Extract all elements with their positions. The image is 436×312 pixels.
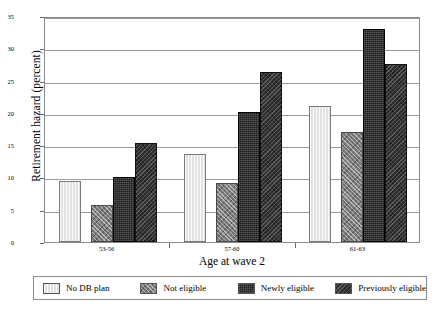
plot-area bbox=[44, 17, 420, 243]
bar bbox=[113, 177, 135, 242]
x-tick-mark bbox=[169, 243, 170, 248]
y-tick-label: 25 bbox=[0, 79, 14, 86]
y-axis-title: Retirement hazard (percent) bbox=[30, 16, 42, 216]
y-tick-label: 20 bbox=[0, 111, 14, 118]
legend-item: Not eligible bbox=[131, 283, 228, 294]
gridline bbox=[45, 18, 419, 19]
legend-label: Previously eligible bbox=[358, 283, 426, 293]
legend-item: Newly eligible bbox=[229, 283, 326, 294]
x-tick-mark bbox=[295, 243, 296, 248]
y-tick-label: 10 bbox=[0, 175, 14, 182]
bar bbox=[341, 132, 363, 242]
bar bbox=[59, 181, 81, 242]
x-tick-label: 61-63 bbox=[317, 246, 397, 253]
legend-swatch bbox=[43, 283, 60, 294]
legend-label: Newly eligible bbox=[261, 283, 314, 293]
chart-legend: No DB planNot eligibleNewly eligiblePrev… bbox=[33, 276, 427, 300]
bar bbox=[260, 72, 282, 242]
bar bbox=[135, 143, 157, 242]
y-tick-mark bbox=[40, 243, 44, 244]
legend-swatch bbox=[140, 283, 157, 294]
bar bbox=[184, 154, 206, 242]
y-tick-label: 15 bbox=[0, 143, 14, 150]
legend-item: No DB plan bbox=[34, 283, 131, 294]
x-tick-label: 57-60 bbox=[192, 246, 272, 253]
bar bbox=[385, 64, 407, 242]
bar bbox=[238, 112, 260, 242]
legend-label: No DB plan bbox=[66, 283, 110, 293]
bar-chart: Retirement hazard (percent) 051015202530… bbox=[0, 0, 436, 312]
legend-item: Previously eligible bbox=[326, 283, 426, 294]
bar bbox=[363, 29, 385, 242]
y-tick-label: 35 bbox=[0, 14, 14, 21]
bar bbox=[309, 106, 331, 242]
legend-swatch bbox=[335, 283, 352, 294]
legend-label: Not eligible bbox=[163, 283, 206, 293]
legend-swatch bbox=[238, 283, 255, 294]
x-axis-title: Age at wave 2 bbox=[44, 255, 420, 267]
y-tick-label: 5 bbox=[0, 208, 14, 215]
y-tick-label: 30 bbox=[0, 46, 14, 53]
y-tick-label: 0 bbox=[0, 240, 14, 247]
x-tick-label: 53-56 bbox=[67, 246, 147, 253]
bar bbox=[216, 183, 238, 242]
bar bbox=[91, 205, 113, 242]
